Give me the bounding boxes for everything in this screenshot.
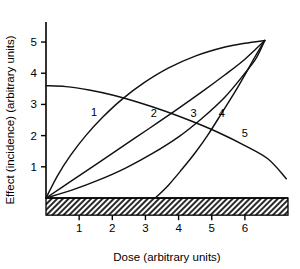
chart-svg: 12345 123456 12345 Dose (arbitrary units…	[0, 0, 300, 269]
x-axis-title: Dose (arbitrary units)	[113, 251, 221, 263]
y-axis-tick-labels: 12345	[31, 36, 38, 173]
x-tick-label-6: 6	[242, 222, 248, 234]
hatched-band-rect	[46, 198, 288, 215]
curve-3	[46, 40, 265, 198]
curve-1	[46, 40, 265, 198]
curve-label-2: 2	[151, 107, 157, 119]
curve-2	[46, 40, 265, 198]
y-tick-label-3: 3	[31, 98, 37, 110]
y-tick-label-5: 5	[31, 36, 37, 48]
x-tick-label-3: 3	[142, 222, 148, 234]
curve-label-4: 4	[219, 107, 225, 119]
y-tick-label-2: 2	[31, 130, 37, 142]
curve-label-group: 12345	[91, 106, 248, 139]
hatched-baseline-band	[46, 198, 288, 215]
x-axis-tick-labels: 123456	[76, 222, 248, 234]
x-tick-label-1: 1	[76, 222, 82, 234]
curve-label-3: 3	[190, 107, 196, 119]
curve-group	[46, 40, 286, 198]
y-axis-title: Effect (incidence) (arbitrary units)	[4, 35, 16, 204]
curve-5	[46, 86, 286, 179]
dose-response-chart: 12345 123456 12345 Dose (arbitrary units…	[0, 0, 300, 269]
x-tick-label-4: 4	[175, 222, 182, 234]
axes	[46, 22, 288, 198]
y-tick-label-4: 4	[31, 67, 38, 79]
x-tick-label-5: 5	[209, 222, 215, 234]
y-tick-label-1: 1	[31, 161, 37, 173]
curve-label-1: 1	[91, 106, 97, 118]
x-tick-label-2: 2	[109, 222, 115, 234]
curve-label-5: 5	[242, 127, 248, 139]
curve-4	[155, 40, 264, 198]
x-axis-ticks	[79, 215, 245, 220]
